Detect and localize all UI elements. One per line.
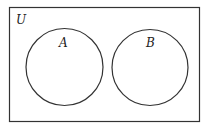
set-b-label: B xyxy=(145,36,155,50)
universe-rectangle xyxy=(10,8,200,122)
set-a-label: A xyxy=(58,36,68,50)
universe-label: U xyxy=(16,13,27,27)
venn-diagram: U A B xyxy=(0,0,210,124)
